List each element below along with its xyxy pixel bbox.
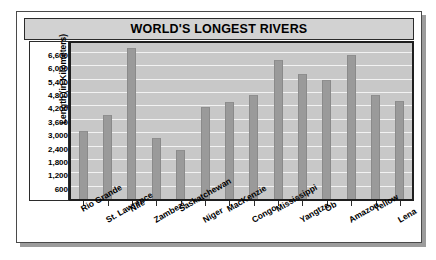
bar: [127, 48, 136, 200]
y-axis-tick-label: 5,400: [38, 79, 68, 87]
bar: [322, 80, 331, 199]
y-axis-tick-label: 3,600: [38, 119, 68, 127]
y-axis-tick-label: 6,000: [38, 65, 68, 73]
bar: [298, 74, 307, 199]
y-axis-tick-label: 2,400: [38, 146, 68, 154]
plot-area: [69, 41, 414, 201]
chart-page: WORLD'S LONGEST RIVERS Length (in Kilome…: [0, 0, 436, 260]
y-axis-tick-label: 1,200: [38, 172, 68, 180]
y-axis-tick-label: 1,800: [38, 159, 68, 167]
x-axis-tick-labels: Rio GrandeSt. LawrenceNileZambeziSaskatc…: [69, 205, 429, 253]
bar: [152, 138, 161, 199]
x-axis-tick-label: Lena: [396, 206, 418, 225]
y-axis-tick-labels: 6001,2001,8002,4003,0003,6004,2004,8005,…: [38, 45, 68, 193]
bars-layer: [71, 43, 412, 199]
y-axis-tick-label: 3,000: [38, 132, 68, 140]
bar: [371, 95, 380, 199]
bar: [395, 101, 404, 199]
bar: [79, 131, 88, 199]
chart-card: WORLD'S LONGEST RIVERS Length (in Kilome…: [16, 11, 422, 243]
bar: [347, 55, 356, 199]
y-axis-tick-label: 4,800: [38, 92, 68, 100]
y-axis-tick-label: 6,600: [38, 52, 68, 60]
bar: [249, 95, 258, 199]
page-title: WORLD'S LONGEST RIVERS: [131, 22, 308, 36]
bar: [176, 150, 185, 199]
y-axis-tick-label: 4,200: [38, 105, 68, 113]
bar: [201, 107, 210, 200]
x-axis-tick-label: Niger: [201, 205, 225, 225]
bar: [274, 60, 283, 199]
chart-title-bar: WORLD'S LONGEST RIVERS: [24, 18, 414, 40]
y-axis-tick-label: 600: [38, 186, 68, 194]
